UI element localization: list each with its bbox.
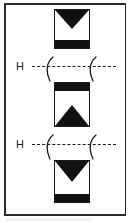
triangle-down-icon	[55, 10, 89, 29]
triangle-up-glyph	[55, 105, 89, 126]
triangle-down-glyph	[55, 161, 89, 182]
arc-glyph	[42, 134, 56, 160]
arc-glyph	[85, 134, 99, 160]
arc-glyph	[42, 56, 56, 82]
state-box-middle	[54, 82, 90, 127]
field-label-lower: H	[16, 138, 24, 150]
arc-marker-upper-left	[42, 56, 54, 80]
state-box-top	[54, 9, 90, 49]
cap-bar-top	[55, 83, 89, 91]
arc-marker-lower-left	[42, 134, 54, 158]
triangle-up-icon	[55, 105, 89, 126]
diagram-canvas: H H	[6, 5, 125, 214]
arc-glyph	[85, 56, 99, 82]
cap-bar-bottom	[55, 194, 89, 202]
state-box-bottom	[54, 160, 90, 203]
triangle-down-icon	[55, 161, 89, 182]
cap-bar-bottom	[55, 40, 89, 48]
field-line-upper: H	[6, 56, 128, 80]
arc-marker-lower-right	[85, 134, 97, 158]
figure-frame: H H	[4, 3, 126, 216]
scan-artifact-strip	[6, 218, 92, 221]
arc-marker-upper-right	[85, 56, 97, 80]
field-label-upper: H	[16, 60, 24, 72]
triangle-down-glyph	[55, 10, 89, 29]
field-line-lower: H	[6, 134, 128, 158]
